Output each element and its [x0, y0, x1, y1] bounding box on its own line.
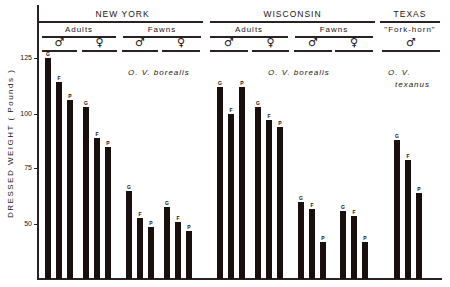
bar-letter-label: P	[103, 140, 113, 146]
y-tick-label-100: 100	[12, 110, 32, 117]
bar	[416, 193, 422, 279]
bar-letter-label: F	[403, 153, 413, 159]
age-wi-adults: Adults	[210, 25, 288, 34]
sex-rule	[382, 50, 440, 52]
region-rule-new-york	[38, 21, 203, 23]
region-texas: TEXAS	[380, 9, 440, 19]
sex-rule	[162, 50, 200, 52]
y-tick-label-125: 125	[12, 54, 32, 61]
bar	[298, 202, 304, 279]
bar	[277, 127, 283, 279]
age-tx-forkhorn: "Fork-horn"	[380, 25, 440, 34]
sex-ny-fawn-male: ♂	[122, 36, 158, 49]
bar	[255, 107, 261, 279]
species-label-tx-1: O. V.	[388, 68, 411, 77]
bar	[67, 100, 73, 279]
bar-letter-label: G	[215, 80, 225, 86]
sex-rule	[82, 50, 117, 52]
sex-rule	[122, 50, 158, 52]
bar	[94, 138, 100, 279]
sex-rule	[335, 50, 373, 52]
region-rule-texas	[380, 21, 440, 23]
bar-letter-label: G	[392, 133, 402, 139]
age-wi-fawns: Fawns	[295, 25, 373, 34]
bar-letter-label: P	[65, 93, 75, 99]
bar-letter-label: F	[135, 211, 145, 217]
sex-wi-adult-male: ♂	[210, 36, 248, 49]
bar-letter-label: G	[162, 200, 172, 206]
bar	[186, 231, 192, 279]
y-tick-label-75: 75	[12, 164, 32, 171]
species-label-wi: O. V. borealis	[268, 68, 330, 77]
y-tick-label-50: 50	[12, 220, 32, 227]
sex-wi-fawn-male: ♂	[294, 36, 332, 49]
sex-rule	[252, 50, 289, 52]
bar-letter-label: F	[307, 202, 317, 208]
species-label-tx-2: texanus	[395, 80, 430, 89]
sex-rule	[294, 50, 332, 52]
bar-letter-label: F	[264, 113, 274, 119]
bar-letter-label: P	[237, 80, 247, 86]
bar-letter-label: G	[296, 195, 306, 201]
region-new-york: NEW YORK	[40, 9, 205, 19]
y-tick-125	[34, 58, 38, 59]
region-rule-wisconsin	[210, 21, 375, 23]
bar	[309, 209, 315, 279]
bar	[217, 87, 223, 279]
sex-ny-adult-female: ♀	[82, 36, 117, 49]
sex-rule	[210, 50, 248, 52]
sex-wi-adult-female: ♀	[252, 36, 289, 49]
bar-letter-label: P	[360, 235, 370, 241]
bar	[351, 216, 357, 279]
y-tick-50	[34, 224, 38, 225]
bar	[394, 140, 400, 279]
bar	[45, 58, 51, 279]
bar	[362, 242, 368, 279]
sex-wi-fawn-female: ♀	[335, 36, 373, 49]
bar-letter-label: F	[173, 215, 183, 221]
bar	[175, 222, 181, 279]
bar-letter-label: P	[318, 235, 328, 241]
y-axis-line	[37, 5, 39, 280]
bar-letter-label: P	[275, 120, 285, 126]
bar-letter-label: G	[124, 184, 134, 190]
bar-letter-label: G	[253, 100, 263, 106]
bar	[137, 218, 143, 279]
bar	[83, 107, 89, 279]
bar-letter-label: F	[54, 75, 64, 81]
bar	[266, 120, 272, 279]
region-wisconsin: WISCONSIN	[210, 9, 375, 19]
bar	[228, 114, 234, 280]
y-axis-label: DRESSED WEIGHT ( Pounds )	[6, 69, 15, 218]
bar	[405, 160, 411, 279]
y-tick-75	[34, 168, 38, 169]
sex-ny-fawn-female: ♀	[162, 36, 200, 49]
age-ny-adults: Adults	[42, 25, 116, 34]
bar-letter-label: F	[92, 131, 102, 137]
bar	[105, 147, 111, 279]
bar	[340, 211, 346, 279]
y-tick-100	[34, 114, 38, 115]
bar	[239, 87, 245, 279]
sex-tx-male: ♂	[382, 36, 440, 49]
bar	[320, 242, 326, 279]
bar-letter-label: P	[146, 220, 156, 226]
bar-letter-label: F	[349, 209, 359, 215]
age-ny-fawns: Fawns	[123, 25, 201, 34]
bar	[148, 227, 154, 279]
bar-letter-label: P	[184, 224, 194, 230]
species-label-ny: O. V. borealis	[128, 68, 190, 77]
bar	[56, 82, 62, 279]
bar-letter-label: G	[81, 100, 91, 106]
bar	[164, 207, 170, 279]
bar-letter-label: G	[338, 204, 348, 210]
sex-ny-adult-male: ♂	[42, 36, 77, 49]
bar-letter-label: P	[414, 186, 424, 192]
bar-letter-label: G	[43, 51, 53, 57]
bar-letter-label: F	[226, 107, 236, 113]
bar	[126, 191, 132, 279]
